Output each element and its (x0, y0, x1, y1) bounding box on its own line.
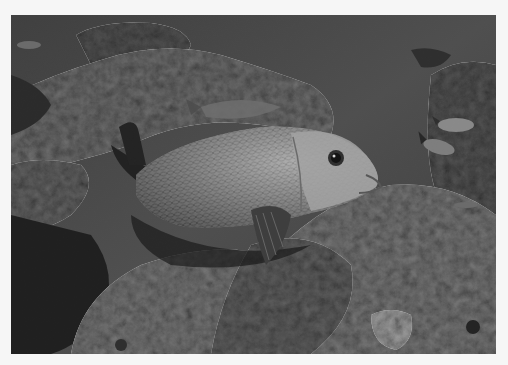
underwater-photo (11, 15, 496, 354)
photo-scene (11, 15, 496, 354)
